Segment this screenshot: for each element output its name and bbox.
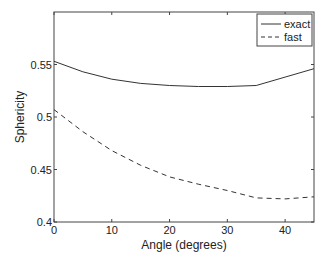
x-tick-label: 30 (221, 224, 233, 236)
x-tick-label: 20 (163, 224, 175, 236)
y-tick-label: 0.45 (31, 164, 52, 176)
series-fast-line (54, 110, 314, 199)
plot-axes: 0102030400.40.450.50.55Angle (degrees)Sp… (13, 12, 314, 252)
series-exact-line (54, 61, 314, 86)
y-axis-label: Sphericity (13, 91, 27, 144)
legend: exactfast (257, 14, 312, 46)
x-tick-label: 10 (106, 224, 118, 236)
chart-svg: 0102030400.40.450.50.55Angle (degrees)Sp… (0, 0, 332, 267)
legend-exact-label: exact (284, 18, 310, 30)
y-tick-label: 0.4 (37, 216, 52, 228)
x-tick-label: 40 (279, 224, 291, 236)
y-tick-label: 0.55 (31, 59, 52, 71)
y-tick-label: 0.5 (37, 111, 52, 123)
plot-lines (54, 61, 314, 199)
legend-fast-label: fast (284, 31, 302, 43)
x-axis-label: Angle (degrees) (141, 238, 226, 252)
